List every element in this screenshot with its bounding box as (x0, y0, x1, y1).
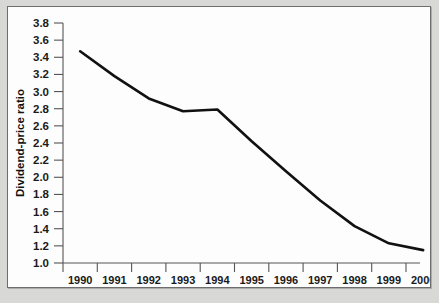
y-tick-label: 1.6 (33, 206, 49, 218)
x-tick-label: 1996 (274, 274, 298, 286)
y-tick-label: 2.8 (33, 103, 50, 115)
x-tick-label: 1994 (205, 274, 230, 286)
y-tick-labels: 3.83.63.43.23.02.82.62.42.22.01.81.61.41… (33, 17, 50, 269)
x-tick-label: 1999 (377, 274, 401, 286)
chart-panel: 3.83.63.43.23.02.82.62.42.22.01.81.61.41… (7, 6, 431, 288)
x-tick-label: 1991 (102, 274, 126, 286)
y-tick-label: 2.6 (33, 120, 49, 132)
x-tick-label: 1995 (239, 274, 263, 286)
x-tick-label: 1992 (137, 274, 161, 286)
y-tick-label: 1.0 (33, 257, 49, 269)
y-tick-label: 1.8 (33, 188, 50, 200)
y-tick-label: 1.2 (33, 240, 49, 252)
line-chart: 3.83.63.43.23.02.82.62.42.22.01.81.61.41… (8, 7, 430, 287)
y-tick-label: 3.6 (33, 34, 49, 46)
x-tick-label: 1990 (68, 274, 92, 286)
y-tick-label: 3.2 (33, 68, 49, 80)
y-axis-title: Dividend-price ratio (14, 89, 26, 197)
series-line-dividend-price-ratio (80, 51, 423, 250)
y-tick-label: 3.8 (33, 17, 50, 29)
x-tick-labels: 1990199119921993199419951996199719981999… (68, 274, 430, 286)
y-tick-label: 3.0 (33, 86, 49, 98)
x-tick-label: 1993 (171, 274, 195, 286)
x-tick-label: 1998 (342, 274, 366, 286)
x-tick-marks (63, 263, 430, 272)
y-tick-label: 2.0 (33, 171, 49, 183)
figure-container: 3.83.63.43.23.02.82.62.42.22.01.81.61.41… (0, 0, 439, 303)
x-tick-label: 2000 (411, 274, 430, 286)
y-tick-label: 2.4 (33, 137, 50, 149)
y-tick-marks (54, 23, 63, 263)
y-tick-label: 1.4 (33, 223, 50, 235)
y-tick-label: 2.2 (33, 154, 49, 166)
y-tick-label: 3.4 (33, 51, 50, 63)
x-tick-label: 1997 (308, 274, 332, 286)
